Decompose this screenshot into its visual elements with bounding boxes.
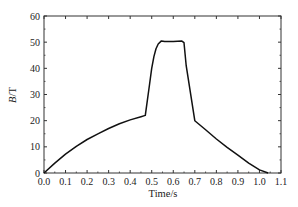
- x-tick-label: 0.7: [189, 176, 202, 187]
- x-axis-label: Time/s: [149, 188, 178, 199]
- x-tick-label: 0.1: [59, 176, 72, 187]
- y-tick-label: 0: [35, 168, 40, 179]
- y-tick-label: 60: [30, 11, 40, 22]
- y-tick-label: 20: [30, 115, 40, 126]
- x-tick-label: 0.2: [81, 176, 94, 187]
- x-tick-label: 0.6: [167, 176, 180, 187]
- x-tick-label: 0.8: [210, 176, 223, 187]
- y-tick-label: 10: [30, 141, 40, 152]
- x-tick-label: 0.9: [232, 176, 245, 187]
- x-tick-label: 1.1: [275, 176, 288, 187]
- x-tick-label: 1.0: [253, 176, 266, 187]
- y-axis-label: B/T: [7, 87, 18, 103]
- chart: 0.00.10.20.30.40.50.60.70.80.91.01.1 010…: [0, 0, 298, 207]
- x-tick-label: 0.5: [145, 176, 158, 187]
- data-line-b: [44, 41, 268, 173]
- x-tick-label: 0.4: [124, 176, 137, 187]
- y-axis-label-unit: /T: [7, 87, 18, 97]
- y-tick-label: 50: [30, 37, 40, 48]
- y-tick-label: 30: [30, 89, 40, 100]
- plot-frame: [44, 16, 281, 173]
- plot-border: [44, 16, 281, 173]
- x-tick-label: 0.3: [102, 176, 115, 187]
- y-tick-label: 40: [30, 63, 40, 74]
